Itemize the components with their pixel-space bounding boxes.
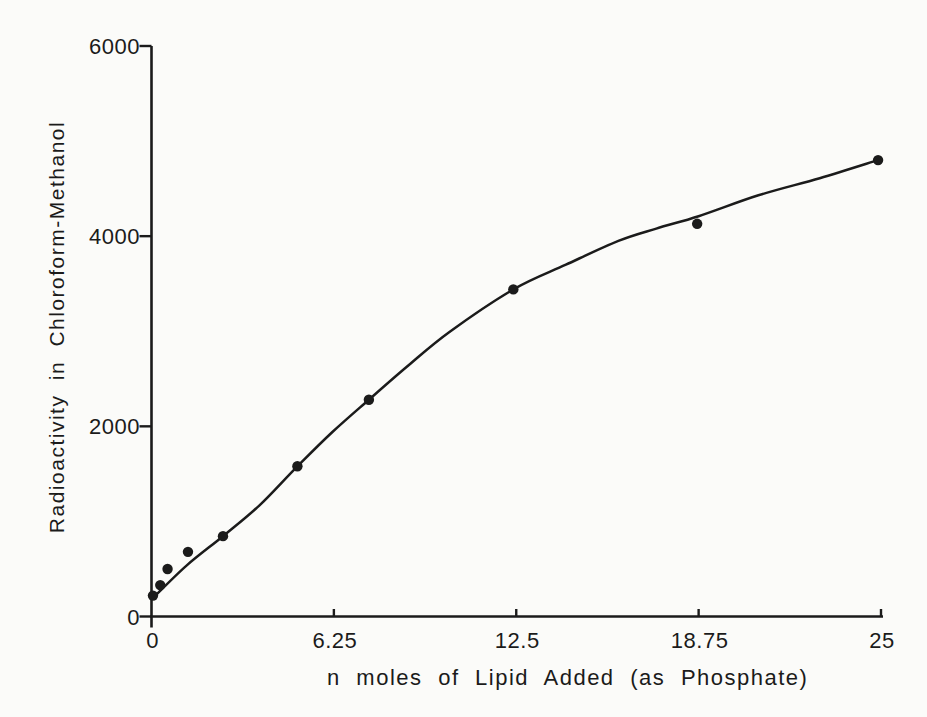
data-point [155,580,165,590]
x-tick-label: 6.25 [312,628,357,653]
x-axis-title: n moles of Lipid Added (as Phosphate) [327,665,787,691]
fit-curve [153,160,878,598]
data-point [873,155,883,165]
scatter-plot: 020004000600006.2512.518.7525 [0,0,927,717]
x-tick-label: 25 [869,628,894,653]
figure: 020004000600006.2512.518.7525 n moles of… [0,0,927,717]
data-point [148,590,158,600]
axis-ticks [140,46,882,617]
x-tick-label: 0 [146,628,159,653]
data-point [183,547,193,557]
y-tick-label: 6000 [89,34,140,59]
data-point [364,395,374,405]
x-tick-label: 12.5 [495,628,540,653]
data-point [218,531,228,541]
data-point [692,219,702,229]
data-point [292,461,302,471]
data-point [162,564,172,574]
x-tick-label: 18.75 [671,628,729,653]
y-tick-label: 0 [127,605,140,630]
data-point [508,284,518,294]
y-axis-title: Radioactivity in Chloroform-Methanol [45,121,69,533]
tick-labels: 020004000600006.2512.518.7525 [89,34,895,653]
y-tick-label: 2000 [89,414,140,439]
y-tick-label: 4000 [89,224,140,249]
fit-curve-path [153,160,878,598]
data-points [148,155,884,601]
axes [150,46,883,628]
